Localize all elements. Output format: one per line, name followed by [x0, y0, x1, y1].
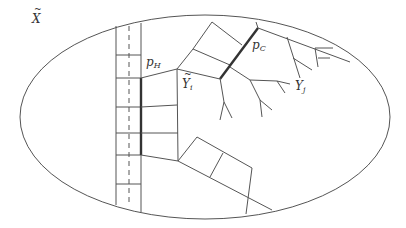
label-node-yj: Yj: [295, 80, 305, 94]
label-text: p: [146, 55, 154, 69]
label-subscript: C: [260, 44, 266, 53]
label-text: Y: [295, 79, 303, 93]
label-text: Y: [182, 78, 190, 90]
cell-block-h: [141, 69, 178, 161]
space-boundary-ellipse: [20, 15, 390, 219]
label-node-yi-tilde: Yi: [182, 78, 192, 92]
label-path-ph: pH: [146, 56, 161, 70]
label-space-x-tilde: X: [32, 13, 41, 25]
cell-block-lower: [178, 137, 272, 214]
path-pc-thick: [220, 28, 258, 79]
label-text: X: [32, 13, 41, 25]
label-subscript: j: [303, 85, 305, 94]
label-subscript: i: [190, 83, 193, 92]
label-subscript: H: [154, 61, 161, 70]
label-path-pc: pC: [252, 39, 266, 53]
diagram-canvas: X pH pC Yi Yj: [0, 0, 406, 228]
ladder-column: [116, 23, 141, 212]
diagram-drawing: [0, 0, 406, 228]
label-text: p: [252, 38, 260, 52]
